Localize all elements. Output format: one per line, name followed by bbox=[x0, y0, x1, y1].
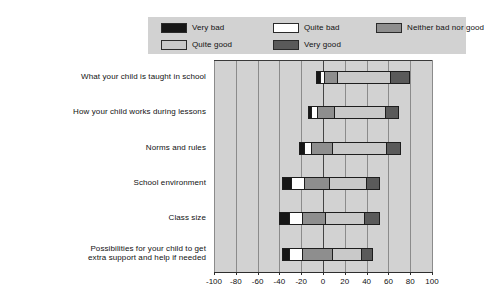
x-axis-tick-label: 60 bbox=[384, 277, 393, 286]
bar-segment-very-bad bbox=[280, 213, 289, 224]
x-axis-tick bbox=[432, 272, 433, 275]
legend-label: Quite bad bbox=[304, 23, 340, 33]
x-axis-tick-label: 80 bbox=[406, 277, 415, 286]
legend-item-neither-bad-nor-good[interactable]: Neither bad nor good bbox=[376, 21, 484, 34]
x-axis-tick-label: -80 bbox=[230, 277, 242, 286]
category-label-line: How your child works during lessons bbox=[1, 107, 206, 117]
bar-segment-neither-bad-nor-good bbox=[317, 107, 334, 118]
x-axis-tick bbox=[388, 272, 389, 275]
legend-swatch-very-good-icon bbox=[273, 40, 299, 50]
stacked-bar[interactable] bbox=[299, 142, 401, 155]
bar-segment-very-good bbox=[364, 213, 379, 224]
bar-segment-neither-bad-nor-good bbox=[302, 249, 332, 260]
x-axis-tick bbox=[345, 272, 346, 275]
stacked-bar[interactable] bbox=[279, 212, 379, 225]
bar-segment-very-good bbox=[361, 249, 372, 260]
bar-segment-very-good bbox=[366, 178, 379, 189]
stacked-bar[interactable] bbox=[316, 71, 410, 84]
x-axis-tick-label: 100 bbox=[425, 277, 438, 286]
bar-segment-very-good bbox=[390, 72, 409, 83]
x-axis-tick-label: -60 bbox=[252, 277, 264, 286]
category-label-line: School environment bbox=[1, 178, 206, 188]
stacked-bar[interactable] bbox=[282, 248, 374, 261]
category-label: How your child works during lessons bbox=[1, 107, 206, 117]
category-label: School environment bbox=[1, 178, 206, 188]
bar-segment-quite-bad bbox=[289, 249, 302, 260]
bar-segment-quite-bad bbox=[289, 213, 302, 224]
x-axis-tick bbox=[258, 272, 259, 275]
x-axis-tick-label: 0 bbox=[321, 277, 325, 286]
x-axis-tick bbox=[301, 272, 302, 275]
x-axis-tick-label: 40 bbox=[362, 277, 371, 286]
chart-legend: Very badQuite badNeither bad nor goodQui… bbox=[148, 17, 466, 54]
plot-wrapper: What your child is taught in schoolHow y… bbox=[0, 57, 473, 302]
category-label: Class size bbox=[1, 213, 206, 223]
legend-item-very-good[interactable]: Very good bbox=[273, 38, 341, 51]
legend-item-quite-good[interactable]: Quite good bbox=[161, 38, 232, 51]
legend-item-very-bad[interactable]: Very bad bbox=[161, 21, 224, 34]
category-label-line: What your child is taught in school bbox=[1, 72, 206, 82]
bar-segment-very-good bbox=[385, 107, 398, 118]
x-axis-tick bbox=[323, 272, 324, 275]
x-axis-tick-label: -20 bbox=[295, 277, 307, 286]
x-axis-tick bbox=[236, 272, 237, 275]
legend-label: Neither bad nor good bbox=[407, 23, 484, 33]
x-axis-tick bbox=[279, 272, 280, 275]
legend-label: Very good bbox=[304, 40, 341, 50]
legend-swatch-very-bad-icon bbox=[161, 23, 187, 33]
category-label: Norms and rules bbox=[1, 143, 206, 153]
category-label-line: Norms and rules bbox=[1, 143, 206, 153]
x-axis-tick-label: -40 bbox=[274, 277, 286, 286]
bar-segment-neither-bad-nor-good bbox=[304, 178, 329, 189]
x-axis: -100-80-60-40-20020406080100 bbox=[214, 272, 432, 302]
x-axis-tick bbox=[410, 272, 411, 275]
bar-segment-quite-good bbox=[332, 249, 362, 260]
bar-segment-neither-bad-nor-good bbox=[324, 72, 337, 83]
x-axis-tick bbox=[367, 272, 368, 275]
legend-swatch-neither-bad-nor-good-icon bbox=[376, 23, 402, 33]
bar-segment-quite-good bbox=[337, 72, 390, 83]
bar-segment-quite-good bbox=[329, 178, 366, 189]
bar-segment-very-good bbox=[386, 143, 401, 154]
stacked-bar[interactable] bbox=[308, 106, 400, 119]
bar-segment-neither-bad-nor-good bbox=[302, 213, 326, 224]
category-label: Possibilities for your child to getextra… bbox=[1, 244, 206, 263]
bar-segment-neither-bad-nor-good bbox=[311, 143, 332, 154]
bar-segment-quite-good bbox=[334, 107, 385, 118]
category-label-line: Possibilities for your child to get bbox=[1, 244, 206, 254]
stacked-bar[interactable] bbox=[282, 177, 380, 190]
bar-segment-quite-bad bbox=[291, 178, 304, 189]
category-label-line: extra support and help if needed bbox=[1, 253, 206, 263]
category-label-line: Class size bbox=[1, 213, 206, 223]
legend-swatch-quite-good-icon bbox=[161, 40, 187, 50]
category-label: What your child is taught in school bbox=[1, 72, 206, 82]
bar-segment-quite-good bbox=[325, 213, 363, 224]
x-axis-tick-label: -100 bbox=[206, 277, 222, 286]
legend-label: Quite good bbox=[192, 40, 232, 50]
x-axis-tick bbox=[214, 272, 215, 275]
bar-segment-quite-good bbox=[332, 143, 385, 154]
legend-label: Very bad bbox=[192, 23, 224, 33]
bar-segment-very-bad bbox=[283, 178, 292, 189]
legend-item-quite-bad[interactable]: Quite bad bbox=[273, 21, 340, 34]
x-axis-tick-label: 20 bbox=[340, 277, 349, 286]
legend-swatch-quite-bad-icon bbox=[273, 23, 299, 33]
